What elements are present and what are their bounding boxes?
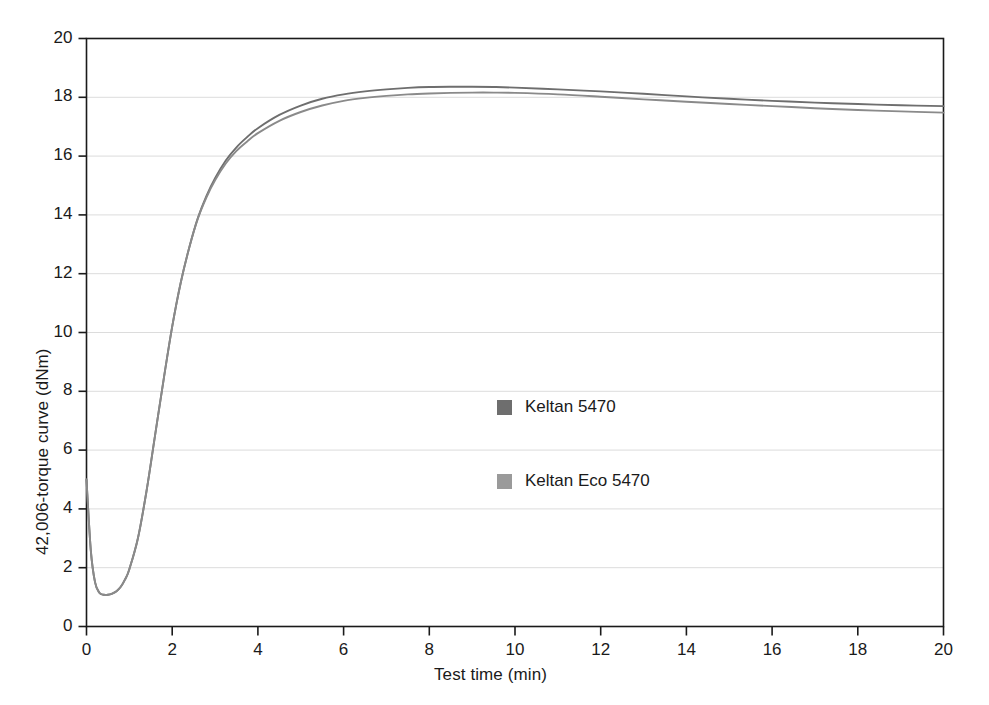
chart-figure: 42,006-torque curve (dNm) Test time (min… <box>0 0 989 705</box>
legend-swatch-icon-1 <box>497 474 512 489</box>
axis-tick-marks <box>79 39 944 636</box>
legend-label-1: Keltan Eco 5470 <box>525 471 650 491</box>
legend-item-0: Keltan 5470 <box>497 396 650 418</box>
plot-area <box>0 0 989 705</box>
legend-swatch-icon-0 <box>497 400 512 415</box>
legend-item-1: Keltan Eco 5470 <box>497 470 650 492</box>
chart-legend: Keltan 5470 Keltan Eco 5470 <box>497 396 650 544</box>
legend-label-0: Keltan 5470 <box>525 397 616 417</box>
